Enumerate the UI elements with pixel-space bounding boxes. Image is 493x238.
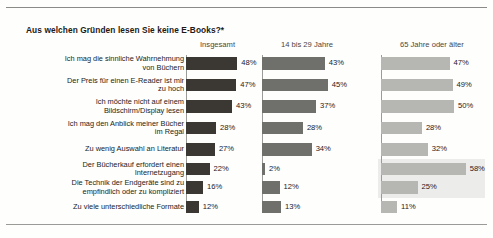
chart-row: 49% <box>381 77 485 97</box>
bar-value-label: 2% <box>269 163 280 176</box>
bar-value-label: 28% <box>307 122 322 135</box>
bar <box>186 181 203 194</box>
chart-row: 48% <box>186 55 254 75</box>
bar-value-label: 43% <box>236 100 251 113</box>
chart-row: 43% <box>186 98 254 118</box>
bar <box>262 79 328 92</box>
chart-row: 43% <box>262 55 366 75</box>
bar <box>186 57 237 70</box>
bar-value-label: 34% <box>316 143 331 156</box>
bar-rows: 43%45%37%28%34%2%12%13% <box>262 55 366 215</box>
chart-row: 25% <box>381 179 485 199</box>
chart-title: Aus welchen Gründen lesen Sie keine E-Bo… <box>26 25 224 35</box>
bar <box>186 163 210 176</box>
bar <box>381 143 428 156</box>
chart-row: 47% <box>186 77 254 97</box>
series-panel-65-jahre-oder-aelter: 47%49%50%28%32%58%25%11% <box>381 55 485 215</box>
column-header-14-bis-29-jahre: 14 bis 29 Jahre <box>281 40 333 49</box>
bar-value-label: 12% <box>203 201 218 214</box>
bar-value-label: 49% <box>457 79 472 92</box>
bar-value-label: 28% <box>426 122 441 135</box>
chart-row: 45% <box>262 77 366 97</box>
chart-row: 32% <box>381 141 485 161</box>
bar <box>381 79 453 92</box>
bar <box>186 201 199 214</box>
bar-rows: 48%47%43%28%27%22%16%12% <box>186 55 254 215</box>
series-panel-insgesamt: 48%47%43%28%27%22%16%12% <box>186 55 254 215</box>
bar-value-label: 22% <box>214 163 229 176</box>
bar <box>381 122 422 135</box>
chart-row: 22% <box>186 161 254 181</box>
chart-row: 11% <box>381 199 485 219</box>
bar <box>262 163 265 176</box>
bar <box>381 57 450 70</box>
bar-value-label: 50% <box>458 100 473 113</box>
bar-value-label: 12% <box>284 181 299 194</box>
bar <box>262 143 312 156</box>
chart-row: 2% <box>262 161 366 181</box>
bar-value-label: 27% <box>219 143 234 156</box>
bar <box>381 100 454 113</box>
bar-value-label: 25% <box>422 181 437 194</box>
bar-value-label: 13% <box>285 201 300 214</box>
bar-rows: 47%49%50%28%32%58%25%11% <box>381 55 485 215</box>
chart-figure: Aus welchen Gründen lesen Sie keine E-Bo… <box>0 0 493 238</box>
chart-row: 47% <box>381 55 485 75</box>
bar <box>262 122 303 135</box>
bar-value-label: 47% <box>454 57 469 70</box>
bar-value-label: 43% <box>329 57 344 70</box>
chart-row: 27% <box>186 141 254 161</box>
bar-value-label: 11% <box>401 201 416 214</box>
bar-value-label: 32% <box>432 143 447 156</box>
bar-value-label: 45% <box>332 79 347 92</box>
chart-row: 12% <box>262 179 366 199</box>
bar-value-label: 28% <box>220 122 235 135</box>
chart-row: 37% <box>262 98 366 118</box>
chart-row: 34% <box>262 141 366 161</box>
column-header-65-jahre-oder-aelter: 65 Jahre oder älter <box>400 40 464 49</box>
bar-value-label: 48% <box>241 57 256 70</box>
chart-row: 28% <box>262 120 366 140</box>
chart-row: 50% <box>381 98 485 118</box>
bottom-divider <box>6 224 487 225</box>
bar <box>186 79 236 92</box>
bar <box>262 201 281 214</box>
bar-value-label: 58% <box>470 163 485 176</box>
chart-row: 16% <box>186 179 254 199</box>
bar <box>262 181 280 194</box>
top-divider <box>6 7 487 8</box>
bar <box>262 57 325 70</box>
chart-row: 12% <box>186 199 254 219</box>
bar <box>381 181 418 194</box>
plot-area: 48%47%43%28%27%22%16%12% 43%45%37%28%34%… <box>0 55 493 215</box>
chart-row: 28% <box>381 120 485 140</box>
bar <box>262 100 316 113</box>
chart-row: 28% <box>186 120 254 140</box>
chart-row: 13% <box>262 199 366 219</box>
bar-value-label: 37% <box>320 100 335 113</box>
bar <box>381 163 466 176</box>
series-panel-14-bis-29-jahre: 43%45%37%28%34%2%12%13% <box>262 55 366 215</box>
bar <box>186 122 216 135</box>
chart-row: 58% <box>381 161 485 181</box>
bar-value-label: 47% <box>240 79 255 92</box>
bar <box>186 100 232 113</box>
bar <box>186 143 215 156</box>
column-header-insgesamt: Insgesamt <box>200 40 235 49</box>
bar <box>381 201 397 214</box>
bar-value-label: 16% <box>207 181 222 194</box>
